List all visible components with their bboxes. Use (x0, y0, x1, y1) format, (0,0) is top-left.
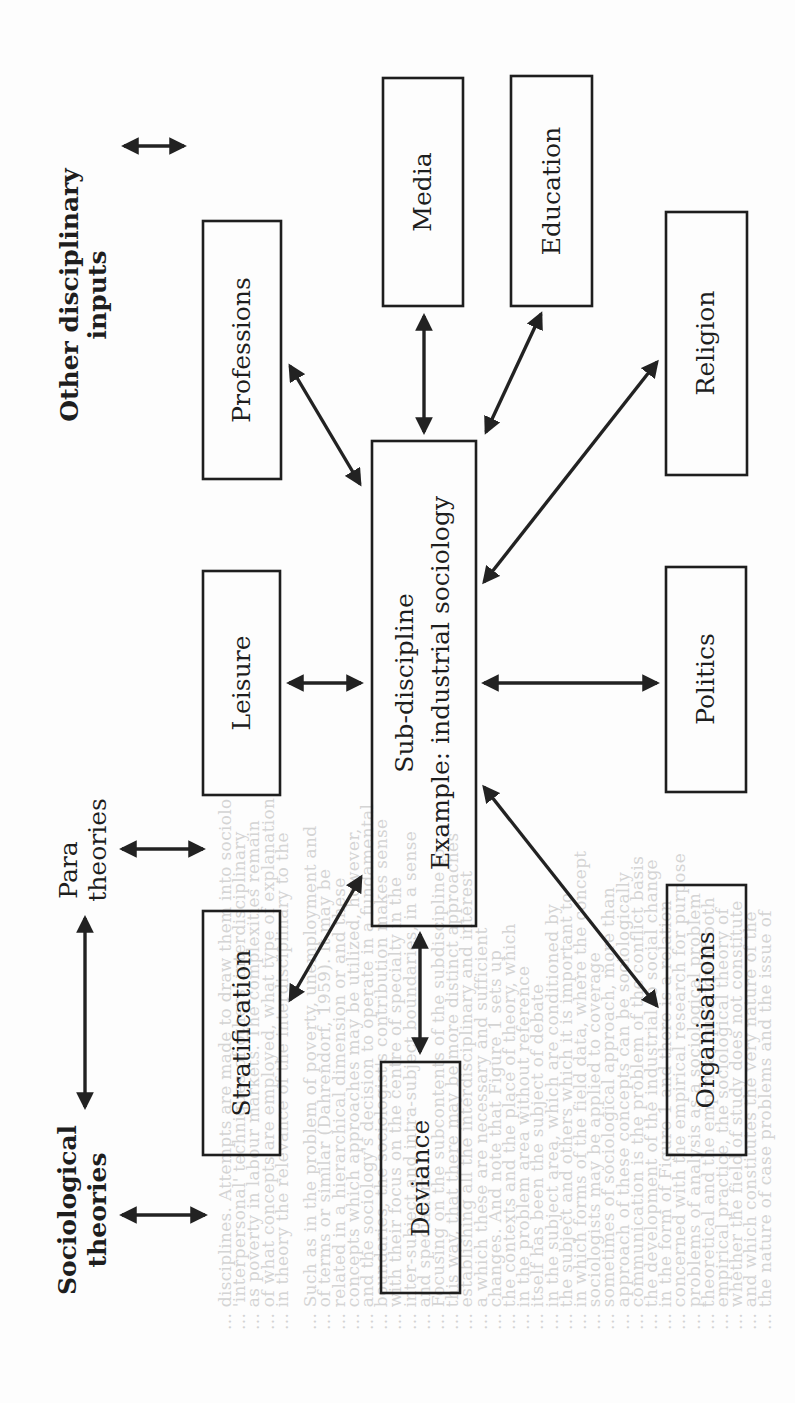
arrow-center-stratification (290, 877, 361, 1000)
svg-text:Other disciplinary: Other disciplinary (55, 167, 84, 422)
arrow-center-education (486, 314, 541, 432)
node-religion: Religion (666, 212, 747, 475)
para-line-1: Para (54, 841, 83, 899)
label-sociological-theories: Sociological theories (53, 1125, 112, 1295)
node-professions: Professions (203, 221, 281, 479)
center-label-line-1: Sub-discipline (390, 593, 419, 772)
media-label: Media (408, 152, 437, 231)
label-other-disciplinary-inputs: Other disciplinary inputs (55, 167, 112, 422)
label-para-theories: Para theories (54, 798, 112, 902)
node-education: Education (511, 76, 592, 306)
professions-label: Professions (227, 277, 256, 423)
svg-text:Sociological: Sociological (53, 1125, 82, 1295)
node-leisure: Leisure (203, 571, 280, 795)
center-label-line-2: Example: industrial sociology (426, 495, 455, 870)
node-stratification: Stratification (203, 911, 280, 1155)
organisations-label: Organisations (691, 931, 720, 1108)
node-media: Media (383, 78, 463, 306)
node-center-subdiscipline: Sub-discipline Example: industrial socio… (372, 441, 476, 926)
svg-text:theories: theories (83, 798, 112, 902)
education-label: Education (537, 127, 566, 255)
arrow-center-religion (484, 362, 657, 582)
node-organisations: Organisations (667, 885, 746, 1155)
leisure-label: Leisure (227, 635, 256, 730)
sociology-subdiscipline-diagram: Other disciplinary inputs Para theories … (0, 0, 795, 1403)
deviance-label: Deviance (406, 1120, 435, 1237)
para-line-2: theories (83, 798, 112, 902)
scanned-page: ... disciplines. Attempts are made to dr… (0, 0, 795, 1403)
other-inputs-line-1: Other disciplinary (55, 167, 84, 422)
node-politics: Politics (666, 567, 746, 792)
other-inputs-line-2: inputs (83, 251, 112, 340)
svg-text:Para: Para (54, 841, 83, 899)
religion-label: Religion (691, 291, 720, 396)
svg-text:inputs: inputs (83, 251, 112, 340)
node-deviance: Deviance (381, 1062, 460, 1293)
svg-text:theories: theories (83, 1153, 112, 1268)
socio-line-1: Sociological (53, 1125, 82, 1295)
arrow-center-organisations (484, 787, 657, 1006)
stratification-label: Stratification (227, 950, 256, 1117)
socio-line-2: theories (83, 1153, 112, 1268)
arrow-center-professions (290, 366, 360, 484)
politics-label: Politics (691, 633, 720, 725)
